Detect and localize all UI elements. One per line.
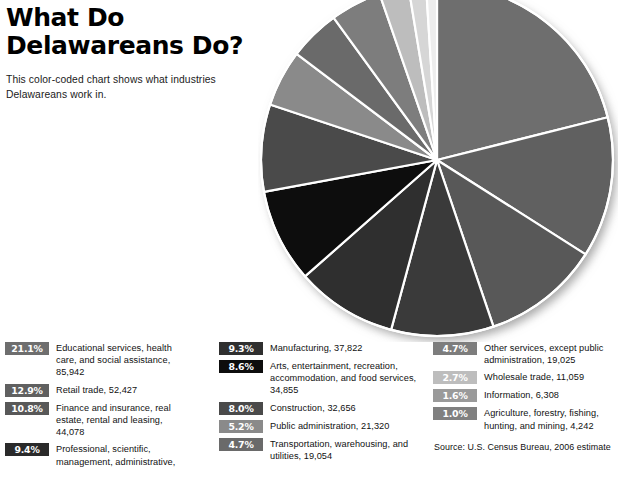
legend-percent: 1.6% xyxy=(442,391,467,400)
legend-item: 5.2%Public administration, 21,320 xyxy=(219,419,424,433)
legend-item: 4.7%Other services, except public admini… xyxy=(433,341,617,366)
page-title: What Do Delawareans Do? xyxy=(6,4,276,60)
legend-percent: 1.0% xyxy=(442,409,467,418)
legend-column-1: 21.1%Educational services, health care, … xyxy=(5,341,210,472)
legend: 21.1%Educational services, health care, … xyxy=(0,341,617,478)
legend-percent: 8.0% xyxy=(228,404,253,413)
legend-percent: 8.6% xyxy=(228,362,253,371)
legend-label: Professional, scientific, management, ad… xyxy=(56,442,175,467)
legend-swatch: 21.1% xyxy=(5,342,49,355)
pie-chart xyxy=(258,0,618,342)
legend-swatch: 4.7% xyxy=(433,342,477,355)
legend-swatch: 1.0% xyxy=(433,407,477,420)
legend-item: 21.1%Educational services, health care, … xyxy=(5,341,210,379)
legend-label: Educational services, health care, and s… xyxy=(56,341,172,379)
legend-label: Manufacturing, 37,822 xyxy=(270,341,362,354)
legend-item: 2.7%Wholesale trade, 11,059 xyxy=(433,370,617,384)
legend-item: 1.6%Information, 6,308 xyxy=(433,388,617,402)
legend-label: Finance and insurance, real estate, rent… xyxy=(56,401,171,439)
page-subtitle: This color-coded chart shows what indust… xyxy=(6,60,276,102)
legend-swatch: 9.4% xyxy=(5,443,49,456)
legend-swatch: 10.8% xyxy=(5,402,49,415)
legend-label: Agriculture, forestry, fishing, hunting,… xyxy=(484,406,599,431)
legend-label: Other services, except public administra… xyxy=(484,341,603,366)
legend-swatch: 8.0% xyxy=(219,402,263,415)
legend-column-3: 4.7%Other services, except public admini… xyxy=(433,341,617,452)
legend-item: 1.0%Agriculture, forestry, fishing, hunt… xyxy=(433,406,617,431)
legend-label: Retail trade, 52,427 xyxy=(56,383,137,396)
legend-percent: 10.8% xyxy=(11,404,43,413)
legend-percent: 5.2% xyxy=(228,422,253,431)
legend-item: 9.4%Professional, scientific, management… xyxy=(5,442,210,467)
legend-percent: 2.7% xyxy=(442,373,467,382)
legend-item: 8.6%Arts, entertainment, recreation, acc… xyxy=(219,359,424,397)
legend-label: Transportation, warehousing, and utiliti… xyxy=(270,437,408,462)
legend-swatch: 12.9% xyxy=(5,384,49,397)
legend-item: 8.0%Construction, 32,656 xyxy=(219,401,424,415)
legend-item: 4.7%Transportation, warehousing, and uti… xyxy=(219,437,424,462)
legend-percent: 12.9% xyxy=(11,386,43,395)
legend-percent: 21.1% xyxy=(11,344,43,353)
pie-chart-svg xyxy=(258,0,618,342)
legend-swatch: 8.6% xyxy=(219,360,263,373)
legend-label: Information, 6,308 xyxy=(484,388,559,401)
legend-label: Construction, 32,656 xyxy=(270,401,356,414)
legend-item: 9.3%Manufacturing, 37,822 xyxy=(219,341,424,355)
legend-item: 12.9%Retail trade, 52,427 xyxy=(5,383,210,397)
legend-swatch: 4.7% xyxy=(219,438,263,451)
legend-swatch: 2.7% xyxy=(433,371,477,384)
legend-percent: 9.3% xyxy=(228,344,253,353)
legend-percent: 4.7% xyxy=(442,344,467,353)
header-block: What Do Delawareans Do? This color-coded… xyxy=(6,4,276,102)
legend-item: 10.8%Finance and insurance, real estate,… xyxy=(5,401,210,439)
legend-swatch: 9.3% xyxy=(219,342,263,355)
legend-swatch: 5.2% xyxy=(219,420,263,433)
legend-swatch: 1.6% xyxy=(433,389,477,402)
legend-percent: 4.7% xyxy=(228,440,253,449)
source-note: Source: U.S. Census Bureau, 2006 estimat… xyxy=(433,436,617,452)
legend-label: Wholesale trade, 11,059 xyxy=(484,370,584,383)
legend-label: Public administration, 21,320 xyxy=(270,419,389,432)
legend-percent: 9.4% xyxy=(14,445,39,454)
legend-column-2: 9.3%Manufacturing, 37,8228.6%Arts, enter… xyxy=(219,341,424,466)
legend-label: Arts, entertainment, recreation, accommo… xyxy=(270,359,416,397)
